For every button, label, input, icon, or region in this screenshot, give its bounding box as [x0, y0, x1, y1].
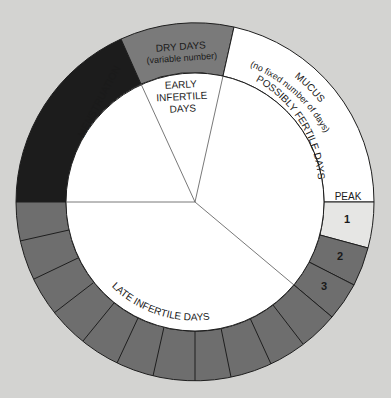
day-2-label: 2 [337, 250, 343, 262]
svg-text:EARLY: EARLY [165, 78, 198, 91]
peak-label: PEAK [335, 191, 362, 202]
svg-text:DAYS: DAYS [169, 102, 196, 114]
day-1-label: 1 [344, 213, 350, 225]
day-3-label: 3 [321, 280, 327, 292]
fertility-cycle-diagram: DRY DAYS (variable number) EARLY INFERTI… [0, 0, 391, 398]
